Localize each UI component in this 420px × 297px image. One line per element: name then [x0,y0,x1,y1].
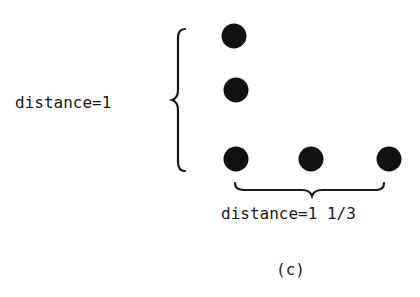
diagram-canvas [0,0,420,297]
dot-2 [224,78,249,103]
left-brace-icon [172,29,185,171]
bottom-brace-icon [235,183,384,196]
vertical-distance-label: distance=1 [15,93,111,112]
figure-caption: (c) [276,260,305,279]
dot-1 [222,24,247,49]
dot-5 [377,147,402,172]
dot-4 [299,147,324,172]
horizontal-distance-label: distance=1 1/3 [221,204,356,223]
dot-3 [224,147,249,172]
